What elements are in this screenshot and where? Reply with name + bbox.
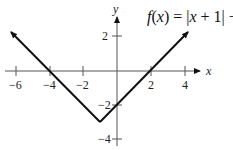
x-axis-label: x bbox=[205, 64, 212, 78]
x-tick-label-m6: −6 bbox=[9, 78, 22, 92]
y-tick-label-m2: −2 bbox=[98, 98, 111, 112]
y-tick-label-m4: −4 bbox=[98, 132, 111, 146]
graph-right-branch bbox=[100, 32, 188, 122]
graph-left-branch bbox=[11, 32, 100, 122]
y-tick-label-2: 2 bbox=[102, 29, 108, 43]
x-tick-label-4: 4 bbox=[182, 78, 188, 92]
x-tick-label-2: 2 bbox=[148, 78, 154, 92]
graph: −6 −4 −2 2 4 2 −2 −4 x y f(x) = |x + 1| … bbox=[0, 0, 233, 150]
y-axis-label: y bbox=[112, 2, 119, 16]
x-tick-label-m2: −2 bbox=[76, 78, 89, 92]
equation-label: f(x) = |x + 1| − 3 bbox=[147, 8, 233, 26]
x-tick-label-m4: −4 bbox=[43, 78, 56, 92]
